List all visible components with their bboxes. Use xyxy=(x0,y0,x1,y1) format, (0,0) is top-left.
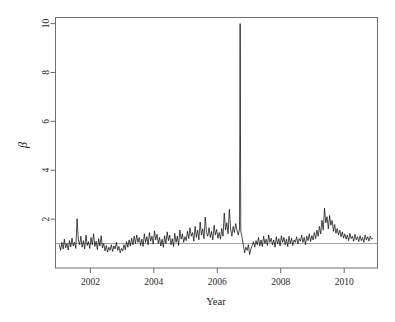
x-tick-label: 2010 xyxy=(335,277,354,287)
x-tick-label: 2004 xyxy=(144,277,163,287)
x-tick-label: 2006 xyxy=(208,277,227,287)
y-tick-label: 2 xyxy=(41,216,51,221)
y-tick-label: 10 xyxy=(41,19,51,29)
figure-background xyxy=(0,0,395,322)
figure-panel: 246810 20022004200620082010 Year β xyxy=(0,0,395,322)
beta-time-series-chart: 246810 20022004200620082010 Year β xyxy=(0,0,395,322)
y-tick-label: 4 xyxy=(41,168,51,173)
x-tick-label: 2008 xyxy=(271,277,290,287)
y-tick-label: 6 xyxy=(41,119,51,124)
y-tick-label: 8 xyxy=(41,70,51,75)
x-tick-label: 2002 xyxy=(81,277,100,287)
x-axis-title: Year xyxy=(206,296,226,307)
y-axis-title: β xyxy=(16,142,30,149)
